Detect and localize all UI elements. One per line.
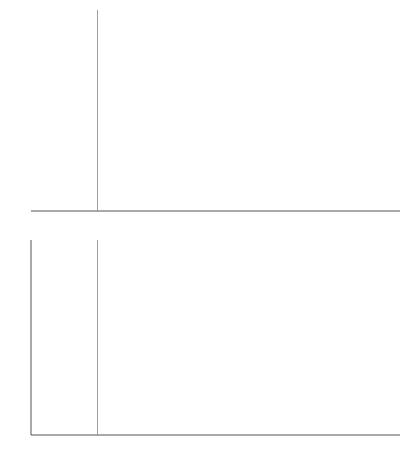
- top-pdf-plot: [31, 10, 400, 211]
- figure: [0, 0, 414, 458]
- bottom-cdf-plot: [31, 240, 400, 435]
